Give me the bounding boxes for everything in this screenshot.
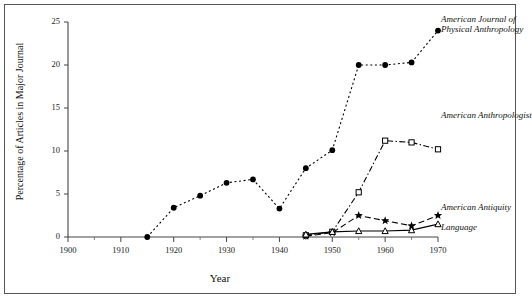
series-label-line: American Journal of: [441, 14, 523, 24]
data-point-marker: [409, 140, 414, 145]
data-point-marker: [303, 165, 309, 171]
series-line: [306, 216, 438, 237]
series-label-2: American Anthropologist: [441, 110, 532, 120]
series-4: [303, 221, 441, 237]
y-axis-title: Percentage of Articles in Major Journal: [14, 17, 25, 227]
data-point-marker: [381, 216, 389, 224]
data-point-marker: [409, 60, 415, 66]
data-point-marker: [383, 138, 388, 143]
data-point-marker: [355, 211, 363, 219]
x-tick-label: 1970: [418, 245, 458, 255]
data-point-marker: [197, 193, 203, 199]
y-tick-label: 0: [34, 231, 60, 241]
x-axis-title: Year: [0, 272, 440, 284]
x-tick-label: 1930: [207, 245, 247, 255]
series-label-line: American Anthropologist: [441, 110, 532, 120]
data-point-marker: [277, 206, 283, 212]
y-tick-label: 15: [34, 102, 60, 112]
data-point-marker: [329, 147, 335, 153]
y-tick-label: 5: [34, 188, 60, 198]
series-3: [302, 211, 443, 240]
series-label-line: Language: [441, 222, 477, 232]
series-line: [147, 31, 438, 237]
data-point-marker: [171, 205, 177, 211]
data-point-marker: [435, 147, 440, 152]
series-label-4: Language: [441, 222, 477, 232]
data-point-marker: [250, 176, 256, 182]
x-tick-label: 1920: [154, 245, 194, 255]
x-tick-label: 1900: [48, 245, 88, 255]
series-label-line: Physical Anthropology: [441, 24, 523, 34]
series-line: [306, 224, 438, 234]
data-point-marker: [434, 211, 442, 219]
data-point-marker: [356, 62, 362, 68]
y-tick-label: 10: [34, 145, 60, 155]
x-tick-label: 1910: [101, 245, 141, 255]
x-tick-label: 1960: [365, 245, 405, 255]
data-point-marker: [356, 190, 361, 195]
x-tick-label: 1950: [312, 245, 352, 255]
x-tick-label: 1940: [259, 245, 299, 255]
series-label-line: American Antiquity: [441, 202, 511, 212]
data-point-marker: [224, 180, 230, 186]
data-point-marker: [144, 234, 150, 240]
y-tick-label: 25: [34, 16, 60, 26]
data-point-marker: [382, 62, 388, 68]
series-1: [144, 28, 441, 240]
series-label-3: American Antiquity: [441, 202, 511, 212]
y-tick-label: 20: [34, 59, 60, 69]
series-label-1: American Journal ofPhysical Anthropology: [441, 14, 523, 34]
